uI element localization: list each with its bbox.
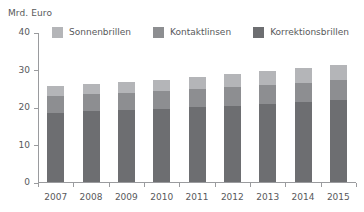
bar-segment-sonnenbrillen (295, 68, 312, 83)
bar-segment-sonnenbrillen (330, 65, 347, 80)
x-axis-line (38, 182, 356, 183)
bar-segment-kontaktlinsen (83, 94, 100, 111)
y-axis-tick-label: 30 (19, 65, 30, 75)
bar-segment-sonnenbrillen (259, 71, 276, 85)
y-axis-unit-label: Mrd. Euro (8, 8, 52, 18)
y-axis-tick-label-wrap: 10 (38, 146, 39, 147)
bar-2015 (330, 65, 347, 182)
x-axis-tick-label: 2007 (44, 192, 67, 202)
bar-segment-korrektionsbrillen (295, 102, 312, 182)
bar-segment-sonnenbrillen (118, 82, 135, 93)
x-axis-tick (38, 183, 39, 187)
x-axis-tick (215, 183, 216, 187)
x-axis-tick (356, 183, 357, 187)
bar-segment-sonnenbrillen (224, 74, 241, 87)
bar-segment-korrektionsbrillen (259, 104, 276, 182)
x-axis-tick-label: 2008 (80, 192, 103, 202)
y-axis-tick-label: 40 (19, 27, 30, 37)
bar-segment-korrektionsbrillen (47, 113, 64, 182)
bar-segment-kontaktlinsen (259, 85, 276, 104)
y-axis-tick-label: 0 (24, 177, 30, 187)
bar-2007 (47, 86, 64, 182)
bar-segment-kontaktlinsen (118, 93, 135, 110)
x-axis-tick-label: 2014 (292, 192, 315, 202)
bar-2013 (259, 71, 276, 182)
bar-segment-kontaktlinsen (47, 96, 64, 113)
x-axis-tick (321, 183, 322, 187)
x-axis-tick (285, 183, 286, 187)
bar-segment-kontaktlinsen (189, 89, 206, 107)
bar-segment-kontaktlinsen (224, 87, 241, 105)
bar-segment-sonnenbrillen (83, 84, 100, 94)
bar-segment-kontaktlinsen (153, 91, 170, 109)
bar-2011 (189, 77, 206, 182)
x-axis-tick-label: 2009 (115, 192, 138, 202)
y-axis-tick-label: 20 (19, 102, 30, 112)
bar-2014 (295, 68, 312, 182)
bar-2010 (153, 80, 170, 182)
x-axis-tick-label: 2011 (186, 192, 209, 202)
bar-segment-korrektionsbrillen (118, 110, 135, 182)
bar-segment-sonnenbrillen (189, 77, 206, 89)
x-axis-tick (144, 183, 145, 187)
stacked-bar-chart: Mrd. Euro SonnenbrillenKontaktlinsenKorr… (0, 0, 364, 212)
x-axis-tick (250, 183, 251, 187)
bar-segment-korrektionsbrillen (224, 106, 241, 183)
bar-segment-korrektionsbrillen (330, 100, 347, 182)
bar-segment-korrektionsbrillen (83, 111, 100, 182)
x-axis-tick (109, 183, 110, 187)
bar-segment-korrektionsbrillen (153, 109, 170, 183)
x-axis-tick-label: 2010 (150, 192, 173, 202)
x-axis-tick (73, 183, 74, 187)
bar-segment-kontaktlinsen (330, 80, 347, 100)
bar-2012 (224, 74, 241, 182)
x-axis-tick-label: 2012 (221, 192, 244, 202)
y-axis-tick-label-wrap: 40 (38, 33, 39, 34)
bar-2008 (83, 84, 100, 182)
x-axis-tick-label: 2013 (256, 192, 279, 202)
bar-segment-korrektionsbrillen (189, 107, 206, 182)
bar-segment-sonnenbrillen (47, 86, 64, 96)
x-axis-tick-label: 2015 (327, 192, 350, 202)
x-axis-tick (179, 183, 180, 187)
bar-segment-kontaktlinsen (295, 83, 312, 103)
y-axis-tick-label-wrap: 30 (38, 71, 39, 72)
y-axis-tick-label-wrap: 20 (38, 108, 39, 109)
bar-2009 (118, 82, 135, 182)
plot-area: 0102030402007200820092010201120122013201… (38, 33, 356, 183)
bar-segment-sonnenbrillen (153, 80, 170, 91)
y-axis-tick-label: 10 (19, 140, 30, 150)
